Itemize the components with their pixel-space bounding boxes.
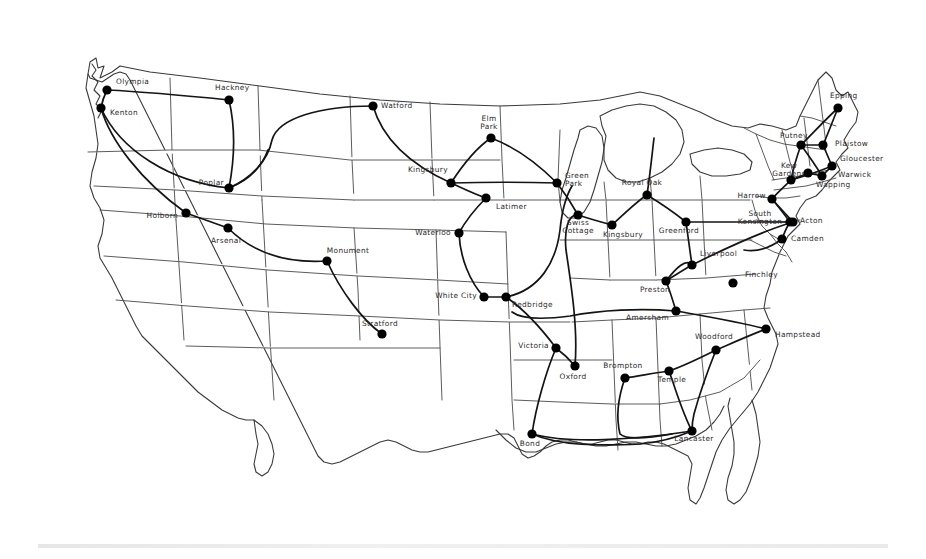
- network-node[interactable]: Acton: [785, 216, 822, 227]
- node-label: Lancaster: [674, 434, 714, 443]
- node-label: SwissCottage: [562, 218, 594, 235]
- network-node[interactable]: Amersham: [626, 306, 681, 322]
- node-label: Harrow: [737, 191, 766, 200]
- network-node[interactable]: Victoria: [518, 341, 560, 353]
- node-label: Finchley: [745, 270, 778, 279]
- node-label: Stratford: [362, 319, 398, 328]
- network-node[interactable]: Hampstead: [761, 324, 820, 339]
- network-node[interactable]: Bond: [520, 429, 540, 448]
- route-brompton-south: [618, 378, 672, 438]
- node-dot[interactable]: [785, 217, 794, 226]
- node-dot[interactable]: [711, 345, 720, 354]
- network-node[interactable]: Stratford: [362, 319, 398, 339]
- network-node[interactable]: Camden: [777, 234, 824, 244]
- node-label: Preston: [640, 285, 670, 294]
- node-label: Victoria: [518, 341, 549, 350]
- network-node[interactable]: Watford: [368, 101, 412, 111]
- network-node[interactable]: Hackney: [215, 83, 250, 105]
- node-dot[interactable]: [486, 133, 495, 142]
- node-label: Plaistow: [835, 139, 868, 148]
- network-node[interactable]: Royal Oak: [622, 178, 663, 200]
- node-label: Oxford: [559, 372, 586, 381]
- route-kingsburyw-latimer: [451, 183, 486, 198]
- node-dot[interactable]: [454, 228, 463, 237]
- route-amersham-hampstead: [676, 311, 766, 329]
- node-dot[interactable]: [224, 183, 233, 192]
- node-dot[interactable]: [620, 373, 629, 382]
- node-dot[interactable]: [527, 429, 536, 438]
- lake-erie-ontario-outline: [690, 148, 752, 176]
- network-node[interactable]: Greenford: [659, 217, 699, 235]
- node-dot[interactable]: [687, 260, 696, 269]
- node-label: Hampstead: [775, 330, 821, 339]
- route-latimer-waterloo: [459, 198, 486, 233]
- network-node[interactable]: Holborn: [147, 208, 191, 220]
- node-dot[interactable]: [833, 103, 842, 112]
- network-node[interactable]: Waterloo: [415, 228, 463, 238]
- node-label: Wapping: [816, 180, 851, 189]
- node-label: Putney: [780, 131, 808, 140]
- node-dot[interactable]: [377, 329, 386, 338]
- node-dot[interactable]: [671, 306, 680, 315]
- network-node[interactable]: KewGardens: [772, 161, 805, 185]
- network-nodes-layer: OlympiaKentonHackneyPoplarHolbornArsenal…: [96, 77, 884, 448]
- route-kingsburyw-elmpark: [451, 138, 491, 183]
- node-dot[interactable]: [96, 103, 105, 112]
- node-dot[interactable]: [796, 140, 805, 149]
- node-dot[interactable]: [368, 101, 377, 110]
- network-node[interactable]: Liverpool: [687, 249, 737, 270]
- node-dot[interactable]: [446, 178, 455, 187]
- node-dot[interactable]: [818, 140, 827, 149]
- node-dot[interactable]: [481, 193, 490, 202]
- node-dot[interactable]: [803, 168, 812, 177]
- network-node[interactable]: Latimer: [481, 193, 527, 211]
- node-dot[interactable]: [607, 220, 616, 229]
- network-node[interactable]: Kingsbury: [408, 165, 456, 188]
- route-camden-southwest: [744, 239, 782, 251]
- network-node[interactable]: SwissCottage: [562, 210, 594, 235]
- node-dot[interactable]: [552, 178, 561, 187]
- node-label: Amersham: [626, 313, 669, 322]
- node-dot[interactable]: [223, 223, 232, 232]
- node-label: Latimer: [496, 202, 527, 211]
- node-dot[interactable]: [181, 208, 190, 217]
- node-dot[interactable]: [501, 292, 510, 301]
- node-dot[interactable]: [570, 361, 579, 370]
- node-dot[interactable]: [761, 324, 770, 333]
- route-kingsbury-royaloak: [612, 195, 647, 225]
- network-node[interactable]: Redbridge: [501, 292, 553, 309]
- node-label: Epping: [830, 91, 858, 100]
- network-node[interactable]: Oxford: [559, 361, 586, 381]
- florida-outline: [726, 398, 760, 504]
- node-dot[interactable]: [551, 343, 560, 352]
- route-holborn-arsenal: [186, 213, 228, 228]
- node-dot[interactable]: [322, 256, 331, 265]
- node-dot[interactable]: [728, 278, 737, 287]
- route-poplar-east: [229, 150, 268, 188]
- network-node[interactable]: Kingsbury: [603, 220, 643, 239]
- node-label: Hackney: [215, 83, 250, 92]
- network-node[interactable]: Lancaster: [674, 426, 714, 443]
- network-node[interactable]: Monument: [322, 246, 369, 266]
- node-dot[interactable]: [102, 85, 111, 94]
- node-label: Brompton: [603, 361, 642, 370]
- network-node[interactable]: ElmPark: [480, 114, 498, 143]
- node-label: Holborn: [147, 211, 178, 220]
- node-dot[interactable]: [642, 190, 651, 199]
- network-node[interactable]: Harrow: [737, 191, 776, 204]
- network-node[interactable]: Brompton: [603, 361, 642, 383]
- node-dot[interactable]: [479, 292, 488, 301]
- node-dot[interactable]: [767, 194, 776, 203]
- node-dot[interactable]: [224, 95, 233, 104]
- node-dot[interactable]: [777, 234, 786, 243]
- node-label: Acton: [800, 216, 823, 225]
- network-node[interactable]: Finchley: [728, 270, 778, 288]
- route-victoria-bond: [532, 348, 556, 434]
- network-node[interactable]: Temple: [657, 366, 686, 384]
- route-elmpark-greenpark: [491, 138, 557, 183]
- node-dot[interactable]: [827, 161, 836, 170]
- great-lakes-outline: [600, 104, 684, 182]
- route-hackney-poplar: [229, 100, 234, 188]
- network-node[interactable]: Arsenal: [211, 223, 241, 245]
- network-node[interactable]: Woodford: [695, 332, 733, 355]
